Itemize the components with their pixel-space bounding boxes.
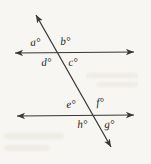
bottom-parallel-line <box>17 115 134 116</box>
angle-label-a: a° <box>30 36 41 48</box>
geometry-figure: a° b° d° c° e° f° h° g° <box>0 0 151 164</box>
transversal-line <box>36 15 111 147</box>
angle-label-g: g° <box>104 118 115 130</box>
top-parallel-line <box>15 52 134 53</box>
figure-canvas <box>0 0 151 164</box>
angle-label-h: h° <box>77 118 88 130</box>
angle-label-b: b° <box>60 35 71 47</box>
angle-label-e: e° <box>66 98 76 109</box>
angle-label-c: c° <box>68 56 78 67</box>
angle-label-f: f° <box>96 97 104 108</box>
angle-label-d: d° <box>41 56 52 68</box>
